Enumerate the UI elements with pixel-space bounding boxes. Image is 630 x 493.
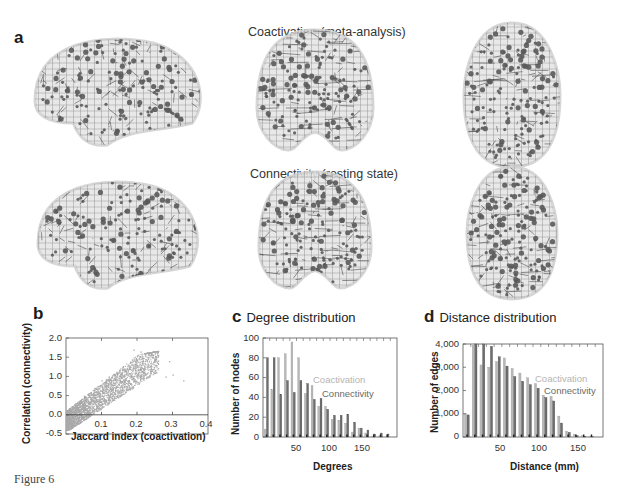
- brain-network-renderings: [0, 0, 630, 300]
- ytick: 4,000: [425, 338, 459, 349]
- xtick: 0.1: [86, 418, 116, 429]
- y-axis-label: Number of nodes: [230, 353, 241, 435]
- y-axis-label: Correlation (connectivity): [21, 323, 32, 444]
- brain-view: [35, 174, 203, 292]
- brain-view: [458, 167, 574, 306]
- xtick: 0.3: [156, 418, 186, 429]
- ytick: 100: [225, 332, 259, 343]
- x-axis-label: Degrees: [313, 461, 352, 472]
- xtick: 100: [314, 442, 344, 453]
- brain-view: [448, 19, 573, 172]
- xtick: 150: [347, 442, 377, 453]
- panel-c-label: c: [232, 307, 241, 326]
- figure-caption: Figure 6: [14, 472, 54, 487]
- panel-c-title-text: Degree distribution: [246, 310, 355, 325]
- x-axis-label: Jaccard index (coactivation): [71, 431, 206, 442]
- legend-coactivation: Coactivation: [535, 373, 587, 384]
- xtick: 100: [524, 442, 554, 453]
- ytick: 0.0: [28, 408, 62, 419]
- ytick: 2.0: [28, 332, 62, 343]
- panel-b-label: b: [33, 304, 43, 324]
- y-axis-label: Number of edges: [429, 351, 440, 433]
- xtick: 0.2: [121, 418, 151, 429]
- brain-view: [237, 163, 376, 295]
- xtick: 0.4: [191, 418, 221, 429]
- legend-coactivation: Coactivation: [313, 374, 365, 385]
- brain-view: [30, 30, 205, 151]
- panel-c-title: cDegree distribution: [232, 307, 356, 327]
- legend-connectivity: Connectivity: [544, 385, 596, 396]
- x-axis-label: Distance (mm): [510, 461, 579, 472]
- ytick: -0.5: [28, 427, 62, 438]
- xtick: 150: [563, 442, 593, 453]
- panel-d-title: dDistance distribution: [424, 307, 556, 327]
- panel-d-label: d: [424, 307, 434, 326]
- brain-view: [248, 28, 389, 150]
- legend-connectivity: Connectivity: [322, 388, 374, 399]
- xtick: 50: [485, 442, 515, 453]
- ytick: 1.5: [28, 351, 62, 362]
- panel-d-title-text: Distance distribution: [439, 310, 556, 325]
- xtick: 50: [281, 442, 311, 453]
- ytick: 1.0: [28, 370, 62, 381]
- ytick: 0.5: [28, 389, 62, 400]
